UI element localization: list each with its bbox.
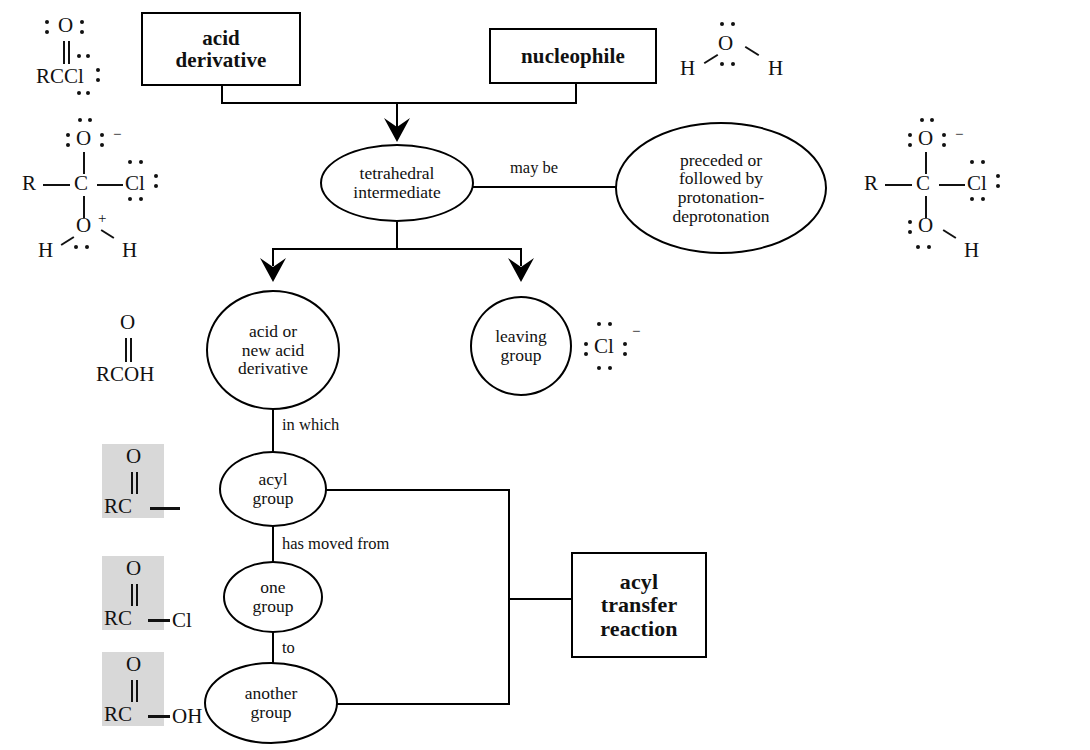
- connector-acid-derivative-stub: [221, 86, 223, 102]
- connector-has-moved-from: [272, 525, 274, 563]
- node-nucleophile[interactable]: nucleophile: [489, 28, 657, 84]
- connector-nucleophile-stub: [575, 84, 577, 102]
- node-acid-derivative[interactable]: acid derivative: [141, 12, 301, 86]
- edge-label-to: to: [282, 638, 295, 658]
- node-tetrahedral-intermediate[interactable]: tetrahedral intermediate: [320, 144, 474, 222]
- node-another-group-label: another group: [206, 684, 336, 721]
- node-another-group[interactable]: another group: [204, 662, 338, 744]
- connector-bracket-spine: [508, 489, 510, 705]
- structure-acid-chloride-top: O RCCl: [36, 6, 136, 108]
- structure-tetrahedral-cation: O − R C Cl O + H H: [14, 116, 184, 266]
- node-acyl-group[interactable]: acyl group: [219, 451, 327, 527]
- connector-bracket-top: [326, 489, 508, 491]
- structure-acyl-chloride-fragment-glyphs: O RC Cl: [102, 556, 242, 634]
- arrowhead-to-tetrahedral: [382, 118, 412, 144]
- structure-carboxylic-acid: O RCOH: [96, 312, 206, 392]
- structure-acyl-fragment-glyphs: O RC: [102, 444, 232, 522]
- node-acyl-transfer-reaction-label: acyl transfer reaction: [573, 570, 705, 640]
- node-leaving-group-label: leaving group: [472, 327, 570, 364]
- node-acyl-transfer-reaction[interactable]: acyl transfer reaction: [571, 552, 707, 658]
- node-acid-or-new-acid-derivative-label: acid or new acid derivative: [208, 322, 338, 378]
- connector-tetra-down: [396, 222, 398, 248]
- node-one-group[interactable]: one group: [223, 561, 323, 633]
- node-acid-or-new-acid-derivative[interactable]: acid or new acid derivative: [206, 290, 340, 410]
- edge-label-in-which: in which: [282, 415, 339, 435]
- node-leaving-group[interactable]: leaving group: [470, 296, 572, 396]
- node-nucleophile-label: nucleophile: [491, 45, 655, 67]
- node-protonation-deprotonation-label: preceded or followed by protonation- dep…: [617, 151, 825, 225]
- connector-top-join-bar: [221, 102, 577, 104]
- node-one-group-label: one group: [225, 578, 321, 615]
- arrowhead-to-leaving-group: [506, 258, 536, 284]
- connector-bracket-bottom: [334, 703, 508, 705]
- structure-water: O H H: [668, 18, 798, 93]
- connector-may-be: [473, 186, 617, 188]
- node-protonation-deprotonation[interactable]: preceded or followed by protonation- dep…: [615, 122, 827, 254]
- connector-bracket-to-box: [508, 598, 572, 600]
- structure-chloride-ion: Cl −: [570, 318, 660, 388]
- connector-in-which: [272, 408, 274, 452]
- connector-to: [272, 632, 274, 664]
- connector-split-bar: [272, 248, 520, 250]
- arrowhead-to-acid-or-new: [258, 258, 288, 284]
- node-tetrahedral-intermediate-label: tetrahedral intermediate: [322, 164, 472, 201]
- diagram-canvas: O RCCl O H H O −: [0, 0, 1090, 750]
- edge-label-may-be: may be: [510, 158, 558, 178]
- node-acid-derivative-label: acid derivative: [143, 27, 299, 72]
- structure-tetrahedral-anion: O − R C Cl O H: [856, 116, 1036, 266]
- edge-label-has-moved-from: has moved from: [282, 534, 389, 554]
- node-acyl-group-label: acyl group: [221, 470, 325, 507]
